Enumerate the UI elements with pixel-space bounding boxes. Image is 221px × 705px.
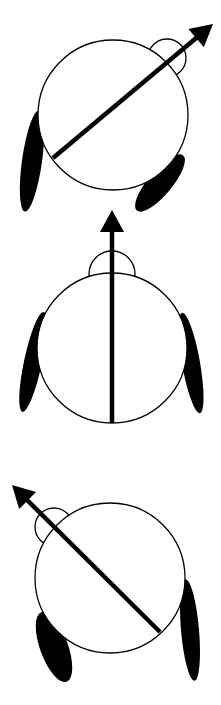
figure-up-left [12, 485, 203, 687]
figure-up-right [15, 24, 213, 218]
diagram-canvas [0, 0, 221, 705]
heading-arrow-icon [100, 210, 124, 232]
figure-up [14, 210, 209, 423]
body-circle [35, 503, 185, 653]
figures-group [12, 24, 213, 687]
